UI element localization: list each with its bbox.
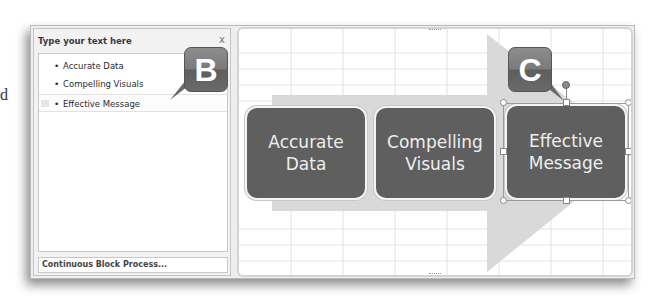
block-accurate-data[interactable]: AccurateData	[245, 106, 367, 200]
block-label: Data	[286, 154, 327, 174]
list-item-label: Effective Message	[63, 99, 140, 109]
selection-gutter	[41, 100, 49, 107]
text-pane-title: Type your text here	[38, 36, 132, 46]
resize-handle-e[interactable]	[625, 148, 632, 155]
resize-handle-se[interactable]	[625, 197, 632, 204]
callout-c: C	[508, 47, 552, 92]
block-label: Accurate	[268, 132, 343, 152]
block-label: Compelling	[387, 132, 483, 152]
close-icon[interactable]: x	[219, 34, 225, 45]
list-item-selected[interactable]: Effective Message	[39, 94, 227, 112]
diagram-canvas[interactable]: AccurateData CompellingVisuals Effective…	[237, 27, 633, 277]
block-label: Visuals	[405, 154, 465, 174]
block-compelling-visuals[interactable]: CompellingVisuals	[374, 106, 496, 200]
resize-handle-nw[interactable]	[500, 99, 507, 106]
resize-handle-sw[interactable]	[500, 197, 507, 204]
layout-name-link[interactable]: Continuous Block Process...	[38, 257, 228, 273]
resize-handle-w[interactable]	[500, 148, 507, 155]
cropped-body-text: d	[0, 86, 8, 104]
resize-handle-ne[interactable]	[625, 99, 632, 106]
resize-handle-s[interactable]	[563, 197, 570, 204]
callout-b: B	[184, 47, 228, 92]
resize-handle-top[interactable]	[429, 29, 441, 32]
selection-outline	[503, 103, 629, 201]
resize-handle-bottom[interactable]	[429, 273, 441, 276]
